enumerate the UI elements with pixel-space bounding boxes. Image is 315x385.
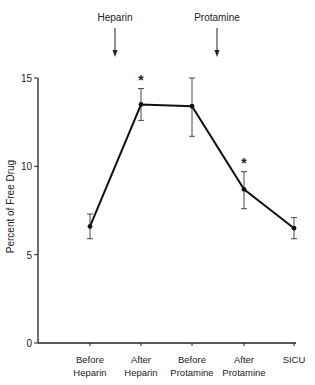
x-tick-label: Before xyxy=(76,354,104,365)
x-tick-label: Protamine xyxy=(222,367,265,378)
y-tick-label: 10 xyxy=(21,161,33,172)
data-point xyxy=(190,104,195,109)
data-point xyxy=(242,187,247,192)
y-tick-label: 5 xyxy=(26,250,32,261)
x-tick-label: Heparin xyxy=(124,367,157,378)
arrowhead-icon xyxy=(215,50,220,57)
x-tick-label: Before xyxy=(178,354,206,365)
x-tick-label: Protamine xyxy=(170,367,213,378)
data-point xyxy=(292,226,297,231)
x-tick-label: SICU xyxy=(283,354,306,365)
y-tick-label: 0 xyxy=(26,338,32,349)
y-axis-label: Percent of Free Drug xyxy=(5,160,16,253)
x-tick-label: After xyxy=(234,354,254,365)
arrowhead-icon xyxy=(113,50,118,57)
significance-asterisk: * xyxy=(138,72,144,88)
data-point xyxy=(139,102,144,107)
data-point xyxy=(88,224,93,229)
annotation-label: Protamine xyxy=(194,12,240,23)
y-tick-label: 15 xyxy=(21,73,33,84)
x-tick-label: After xyxy=(131,354,151,365)
x-tick-label: Heparin xyxy=(73,367,106,378)
significance-asterisk: * xyxy=(241,155,247,171)
line-chart: 051015Percent of Free DrugBeforeHeparinA… xyxy=(0,0,315,385)
annotation-label: Heparin xyxy=(97,12,132,23)
